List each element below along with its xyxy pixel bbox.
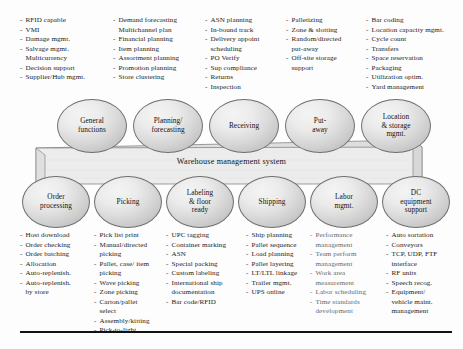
feature-item: Pallet, case/ item — [94, 260, 170, 270]
feature-item: RF units — [386, 269, 462, 279]
node-label: DC equipment support — [400, 189, 431, 215]
feature-item: Container marking — [166, 241, 248, 251]
feature-item: management — [310, 260, 382, 270]
bottom-column-order-processing: Host downloadOrder checkingOrder batchin… — [20, 231, 96, 298]
feature-list: Bar codingLocation capacity mgmt.Cycle c… — [366, 16, 463, 92]
feature-item: Financial planning — [113, 35, 211, 45]
feature-item: measurement — [310, 279, 382, 289]
bottom-column-labeling-floor-ready: UPC taggingContainer markingASNSpecial p… — [166, 231, 248, 307]
feature-item: documentation — [166, 288, 248, 298]
feature-list: Auto sortationConveyorsTCP, UDP, FTFinte… — [386, 231, 462, 317]
feature-item: Pick list print — [94, 231, 170, 241]
node-label: Planning/ forecasting — [151, 117, 184, 134]
node-dc-equipment-support[interactable]: DC equipment support — [382, 176, 450, 228]
node-label: Picking — [117, 198, 140, 207]
feature-item: Bar coding — [366, 16, 463, 26]
feature-item: vehicle maint. — [386, 298, 462, 308]
feature-item: Allocation — [20, 260, 96, 270]
feature-list: UPC taggingContainer markingASNSpecial p… — [166, 231, 248, 307]
node-put-away[interactable]: Put- away — [285, 99, 355, 153]
node-label: Order processing — [40, 193, 72, 210]
feature-item: interface — [386, 260, 462, 270]
feature-item: Salvage mgmt. — [20, 45, 116, 55]
feature-item: International ship — [166, 279, 248, 289]
node-label: Labeling & floor ready — [187, 189, 214, 215]
feature-item: Conveyors — [386, 241, 462, 251]
feature-item: select — [94, 307, 170, 317]
feature-item: Carton/pallet — [94, 298, 170, 308]
feature-item: Host download — [20, 231, 96, 241]
node-shipping[interactable]: Shipping — [238, 176, 306, 228]
feature-item: Wave picking — [94, 279, 170, 289]
node-labor-mgmt[interactable]: Labor mgmt. — [310, 176, 378, 228]
feature-item: Sup compliance — [205, 64, 287, 74]
feature-item: Labor scheduling — [310, 288, 382, 298]
feature-item: Custom labeling — [166, 269, 248, 279]
feature-item: Special packing — [166, 260, 248, 270]
node-order-processing[interactable]: Order processing — [22, 176, 90, 228]
bottom-column-picking: Pick list printManual/directedpickingPal… — [94, 231, 170, 336]
node-picking[interactable]: Picking — [94, 176, 162, 228]
feature-item: Store clustering — [113, 73, 211, 83]
top-column-put-away: PalletizingZone & slottingRandom/directe… — [286, 16, 368, 73]
feature-list: PalletizingZone & slottingRandom/directe… — [286, 16, 368, 73]
node-planning-forecasting[interactable]: Planning/ forecasting — [133, 99, 203, 153]
feature-item: Yard management — [366, 83, 463, 93]
feature-item: Time standards — [310, 298, 382, 308]
feature-item: Cycle count — [366, 35, 463, 45]
feature-item: Auto sortation — [386, 231, 462, 241]
feature-item: support — [286, 64, 368, 74]
feature-item: Transfers — [366, 45, 463, 55]
feature-item: Palletizing — [286, 16, 368, 26]
node-general-functions[interactable]: General functions — [57, 99, 127, 153]
feature-item: PO Verify — [205, 54, 287, 64]
feature-item: Item planning — [113, 45, 211, 55]
feature-item: Work area — [310, 269, 382, 279]
feature-item: Returns — [205, 73, 287, 83]
node-label: Location & storage mgmt. — [381, 113, 410, 139]
feature-item: Speech recog. — [386, 279, 462, 289]
feature-item: Manual/directed — [94, 241, 170, 251]
top-column-receiving: ASN planningIn-bound trackDelivery appoi… — [205, 16, 287, 92]
node-receiving[interactable]: Receiving — [209, 99, 279, 153]
feature-item: Utilization optim. — [366, 73, 463, 83]
node-location-storage-mgmt[interactable]: Location & storage mgmt. — [361, 99, 431, 153]
feature-item: Zone & slotting — [286, 26, 368, 36]
feature-item: Delivery appoint — [205, 35, 287, 45]
node-labeling-floor-ready[interactable]: Labeling & floor ready — [166, 176, 234, 228]
feature-item: Assortment planning — [113, 54, 211, 64]
feature-item: scheduling — [205, 45, 287, 55]
feature-item: VMI — [20, 26, 116, 36]
feature-item: Space reservation — [366, 54, 463, 64]
feature-item: by store — [20, 288, 96, 298]
feature-item: UPC tagging — [166, 231, 248, 241]
feature-item: Damage mgmt. — [20, 35, 116, 45]
feature-list: Pick list printManual/directedpickingPal… — [94, 231, 170, 336]
feature-item: Random/directed — [286, 35, 368, 45]
feature-item: Equipment/ — [386, 288, 462, 298]
feature-item: TCP, UDP, FTF — [386, 250, 462, 260]
node-label: Receiving — [229, 122, 259, 131]
feature-item: development — [310, 307, 382, 317]
feature-item: Off-site storage — [286, 54, 368, 64]
feature-item: Location capacity mgmt. — [366, 26, 463, 36]
feature-item: picking — [94, 269, 170, 279]
bottom-column-dc-equipment-support: Auto sortationConveyorsTCP, UDP, FTFinte… — [386, 231, 462, 317]
feature-item: Team perform — [310, 250, 382, 260]
feature-item: Bar code/RFID — [166, 298, 248, 308]
feature-list: Demand forecastingMultichannel planFinan… — [113, 16, 211, 83]
feature-item: put-away — [286, 45, 368, 55]
feature-item: Inspection — [205, 83, 287, 93]
feature-item: picking — [94, 250, 170, 260]
feature-item: Auto-replenish. — [20, 279, 96, 289]
feature-list: RFID capableVMIDamage mgmt.Salvage mgmt.… — [20, 16, 116, 83]
feature-item: Performance — [310, 231, 382, 241]
node-label: Labor mgmt. — [334, 193, 353, 210]
top-column-general-functions: RFID capableVMIDamage mgmt.Salvage mgmt.… — [20, 16, 116, 83]
feature-item: Demand forecasting — [113, 16, 211, 26]
feature-item: ASN — [166, 250, 248, 260]
feature-item: ASN planning — [205, 16, 287, 26]
node-label: Shipping — [259, 198, 286, 207]
feature-item: management — [386, 307, 462, 317]
feature-item: Promotion planning — [113, 64, 211, 74]
